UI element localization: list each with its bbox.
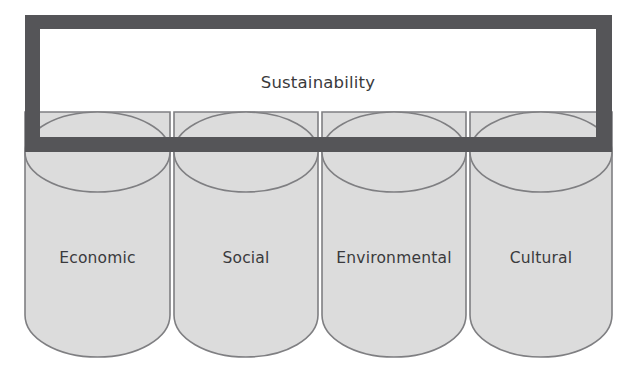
- pillar-cultural-label: Cultural: [510, 249, 573, 267]
- sustainability-diagram: Economic Social Environmental Cultural: [0, 0, 636, 381]
- pillar-economic-label: Economic: [59, 249, 136, 267]
- diagram-canvas: Economic Social Environmental Cultural: [0, 0, 636, 381]
- pillar-environmental-label: Environmental: [336, 249, 451, 267]
- banner-title: Sustainability: [261, 73, 376, 92]
- pillar-social-label: Social: [222, 249, 269, 267]
